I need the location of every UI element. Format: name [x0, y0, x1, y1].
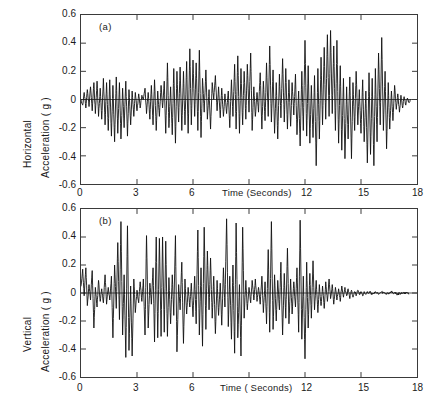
y-tick-label: 0.6	[30, 203, 76, 213]
y-tick-label: -0.2	[30, 123, 76, 133]
y-tick-label: 0.2	[30, 66, 76, 76]
x-tick-label: 18	[412, 382, 423, 394]
waveform-vertical	[81, 209, 417, 377]
y-tick-label: -0.2	[30, 316, 76, 326]
x-tick-label: 6	[189, 382, 195, 394]
y-tick-label: -0.4	[30, 344, 76, 354]
x-tick-label: 3	[133, 382, 139, 394]
y-tick-label: 0.6	[30, 9, 76, 19]
y-tick-label: 0.4	[30, 231, 76, 241]
panel-letter-b: (b)	[99, 215, 112, 226]
y-axis-title-horizontal-line2: Acceleration ( g )	[40, 97, 51, 178]
plot-area-vertical: (b)	[80, 208, 418, 378]
x-tick-label: 12	[301, 382, 312, 394]
y-tick-label: -0.6	[30, 372, 76, 382]
y-tick-label: 0.2	[30, 259, 76, 269]
x-tick-label: 0	[77, 382, 83, 394]
y-tick-label: 0.4	[30, 37, 76, 47]
x-axis-title-vertical: Time ( Seconds)	[220, 382, 292, 394]
y-axis-title-vertical-line2: Acceleration ( g )	[40, 291, 51, 372]
x-tick-label: 15	[358, 382, 369, 394]
panel-horizontal: Horizontal Acceleration ( g ) 0.6 0.4 0.…	[0, 0, 435, 200]
y-tick-label: 0	[30, 95, 76, 105]
y-tick-label: 0	[30, 288, 76, 298]
panel-vertical: Vertical Acceleration ( g ) 0.6 0.4 0.2 …	[0, 194, 435, 412]
waveform-horizontal	[81, 15, 417, 184]
accelerogram-figure: Horizontal Acceleration ( g ) 0.6 0.4 0.…	[0, 0, 435, 412]
panel-letter-a: (a)	[99, 21, 112, 32]
y-tick-label: -0.4	[30, 152, 76, 162]
plot-area-horizontal: (a)	[80, 14, 418, 185]
